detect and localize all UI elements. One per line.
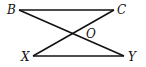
label-o: O [86, 28, 96, 40]
label-x: X [21, 51, 30, 63]
label-y: Y [128, 51, 136, 63]
geometry-diagram: B C O X Y [0, 0, 146, 67]
segment-by [19, 10, 124, 56]
segment-cx [33, 10, 114, 56]
label-b: B [7, 4, 16, 16]
label-c: C [117, 4, 126, 16]
